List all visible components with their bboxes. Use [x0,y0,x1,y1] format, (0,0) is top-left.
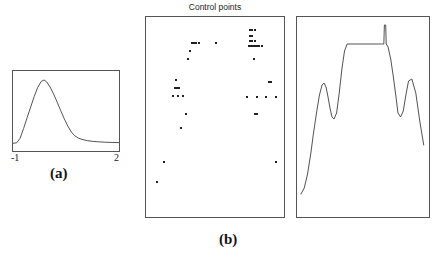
control-point [163,161,165,163]
reconstruction-plot-box [296,16,430,218]
panel-a-caption: (a) [50,166,68,181]
control-point [187,58,189,60]
control-point [177,95,179,97]
control-point [256,113,258,115]
panel-a-curve [13,71,119,151]
control-points-layer [146,17,284,217]
control-point [270,81,272,83]
control-point [180,127,182,129]
control-point [275,96,277,98]
control-point [254,29,256,31]
control-point [256,96,258,98]
control-point [198,42,200,44]
control-point [178,87,180,89]
control-point [182,95,184,97]
control-point [251,35,253,37]
scatter-plot-title: Control points [145,3,285,12]
figure-container: -1 2 (a) Control points (b) [0,0,438,259]
control-point [265,96,267,98]
control-point [246,96,248,98]
panel-b-caption: (b) [219,232,237,247]
control-point [275,161,277,163]
panel-a-plot-box [12,70,120,152]
panel-a-curve-path [13,80,119,143]
reconstruction-curve [297,17,429,217]
control-points-plot-box [145,16,285,218]
control-point [253,58,255,60]
control-point [215,42,217,44]
panel-a-tick-left: -1 [11,153,19,163]
control-point [254,40,256,42]
control-point [185,113,187,115]
panel-a-tick-right: 2 [114,153,119,163]
control-point [172,95,174,97]
control-point [156,181,158,183]
control-point [189,50,191,52]
control-point [175,79,177,81]
control-point [261,45,263,47]
reconstruction-curve-path [301,25,424,194]
